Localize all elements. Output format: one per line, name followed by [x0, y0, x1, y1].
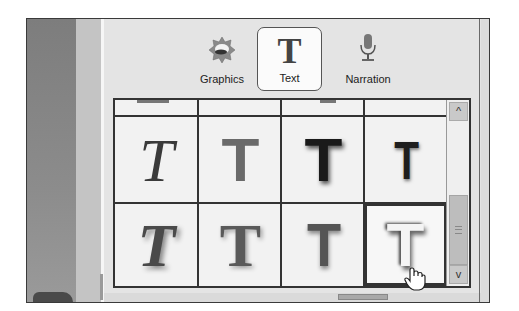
text-style-glyph: T [220, 214, 261, 276]
text-style-block[interactable]: T [199, 117, 282, 202]
frame-edge [479, 19, 480, 302]
tab-text[interactable]: T Text [257, 27, 322, 91]
styles-panel: Graphics T Text Narration [104, 19, 489, 302]
background-desktop [27, 19, 76, 302]
tab-narration-label: Narration [328, 73, 408, 85]
scroll-down-button[interactable]: v [449, 265, 468, 284]
chevron-up-icon: ^ [456, 105, 461, 117]
text-style-glyph: T [138, 214, 176, 276]
microphone-icon [358, 33, 378, 63]
gallery-row: T T T T [115, 202, 446, 287]
text-style-thin-blur[interactable]: T [365, 117, 448, 202]
text-style-glyph: T [306, 214, 340, 276]
text-style-glyph: T [394, 129, 419, 191]
partial-glyph [137, 100, 169, 103]
background-shape [33, 292, 73, 302]
resize-grip[interactable] [338, 294, 388, 300]
tab-text-label: Text [258, 72, 321, 84]
text-style-block-gray[interactable]: T [282, 202, 365, 287]
scroll-up-button[interactable]: ^ [449, 102, 468, 121]
text-style-gallery: T T T T T [113, 98, 471, 288]
text-style-glyph: T [222, 129, 260, 191]
tab-bar: Graphics T Text Narration [104, 19, 489, 97]
scroll-thumb[interactable] [449, 195, 468, 265]
window-frame: Graphics T Text Narration [26, 18, 490, 303]
frame-margin [481, 19, 489, 302]
background-sidebar [76, 19, 101, 302]
tab-graphics-label: Graphics [187, 73, 257, 85]
text-style-serif-shadow[interactable]: T [199, 202, 282, 287]
text-style-serif-italic[interactable]: T [115, 117, 198, 202]
graphics-starburst-icon [209, 37, 235, 63]
gallery-row-partial [115, 100, 446, 117]
text-style-glyph: T [139, 129, 173, 191]
grid-line [363, 100, 365, 115]
chevron-down-icon: v [456, 268, 462, 280]
grid-line [197, 100, 199, 115]
gallery-row: T T T T [115, 117, 446, 204]
gallery-scrollbar[interactable]: ^ v [446, 100, 469, 286]
text-style-grid: T T T T T [115, 100, 446, 286]
grip-icon [455, 226, 462, 234]
partial-glyph [320, 100, 336, 103]
panel-footer [104, 293, 489, 302]
grid-line [280, 100, 282, 115]
hand-cursor-icon [404, 267, 426, 291]
text-T-icon: T [258, 31, 321, 71]
divider-handle[interactable] [100, 274, 103, 300]
tab-narration[interactable]: Narration [328, 27, 408, 91]
tab-graphics[interactable]: Graphics [187, 27, 257, 91]
text-style-block-blur[interactable]: T [282, 117, 365, 202]
text-style-serif-bold-italic[interactable]: T [115, 202, 198, 287]
text-style-glyph: T [305, 129, 343, 191]
